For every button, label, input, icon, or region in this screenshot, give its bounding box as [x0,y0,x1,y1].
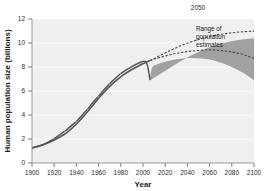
y-tick-label-6: 6 [21,87,25,94]
marker-year-label: 2050 [191,4,206,11]
x-tick-label-1920: 1920 [47,169,62,176]
x-tick-label-2000: 2000 [136,169,151,176]
y-tick-label-0: 0 [21,159,25,166]
y-axis-tick-labels: 0 2 4 6 8 10 12 [18,15,26,166]
y-axis-title: Human population size (billions) [3,29,12,152]
x-tick-label-2020: 2020 [158,169,173,176]
range-annotation-line-3: estimates [196,41,223,48]
y-tick-label-4: 4 [21,111,25,118]
y-tick-label-2: 2 [21,135,25,142]
x-axis-title: Year [135,180,152,189]
range-annotation-line-1: Range of [196,25,222,33]
x-tick-label-1900: 1900 [25,169,40,176]
x-tick-label-1940: 1940 [69,169,84,176]
x-tick-label-1960: 1960 [91,169,106,176]
y-tick-label-12: 12 [18,15,26,22]
x-tick-label-1980: 1980 [114,169,129,176]
range-annotation-line-2: population [196,33,226,41]
x-axis-ticks [32,163,254,167]
x-tick-label-2060: 2060 [202,169,217,176]
population-projection-chart: 0 2 4 6 8 10 12 1900 1920 1940 1960 1980… [0,0,265,191]
y-axis-ticks [28,19,32,163]
x-tick-label-2100: 2100 [247,169,262,176]
y-tick-label-8: 8 [21,63,25,70]
x-axis-tick-labels: 1900 1920 1940 1960 1980 2000 2020 2040 … [25,169,262,176]
x-tick-label-2040: 2040 [180,169,195,176]
x-tick-label-2080: 2080 [225,169,240,176]
y-tick-label-10: 10 [18,39,26,46]
range-annotation: Range of population estimates [196,25,226,48]
